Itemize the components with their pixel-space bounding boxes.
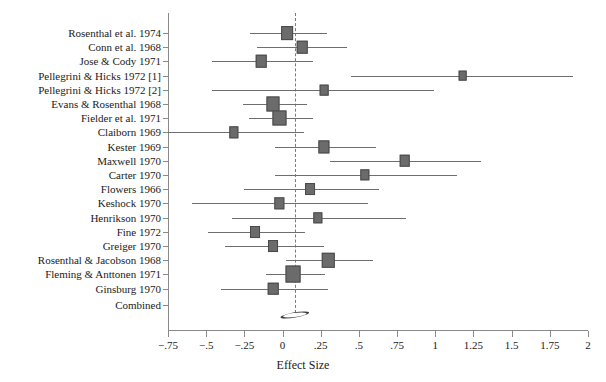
y-axis-tick <box>163 175 168 176</box>
y-axis-tick <box>163 104 168 105</box>
x-axis-title: Effect Size <box>0 358 606 373</box>
x-axis-tick-label: 1.25 <box>464 339 483 351</box>
y-axis-tick <box>163 232 168 233</box>
x-axis-tick-label: −.25 <box>234 339 254 351</box>
y-axis-tick <box>163 218 168 219</box>
study-label: Pellegrini & Hicks 1972 [1] <box>38 70 161 82</box>
x-axis-tick <box>359 331 360 337</box>
y-axis-tick <box>163 33 168 34</box>
study-label: Ginsburg 1970 <box>96 283 162 295</box>
study-label: Evans & Rosenthal 1968 <box>51 98 161 110</box>
study-label: Rosenthal & Jacobson 1968 <box>38 254 161 266</box>
y-axis-tick <box>163 90 168 91</box>
x-axis-tick-label: 1.5 <box>505 339 519 351</box>
y-axis-tick <box>163 61 168 62</box>
study-label: Conn et al. 1968 <box>88 41 161 53</box>
effect-size-marker <box>399 155 410 168</box>
study-label: Henrikson 1970 <box>90 212 161 224</box>
effect-size-marker <box>250 226 260 238</box>
effect-size-marker <box>275 198 284 209</box>
study-label: Fielder et al. 1971 <box>81 112 161 124</box>
effect-size-marker <box>297 41 308 54</box>
study-label: Claiborn 1969 <box>98 126 161 138</box>
x-axis-tick <box>397 331 398 337</box>
effect-size-marker <box>268 240 278 252</box>
forest-plot: Rosenthal et al. 1974Conn et al. 1968Jos… <box>0 0 606 382</box>
combined-effect-diamond <box>274 312 315 319</box>
x-axis-tick <box>588 331 589 337</box>
x-axis-tick <box>206 331 207 337</box>
y-axis-tick <box>163 260 168 261</box>
study-label: Fine 1972 <box>117 226 161 238</box>
x-axis-tick-label: −.75 <box>158 339 178 351</box>
effect-size-marker <box>318 140 329 153</box>
study-label: Jose & Cody 1971 <box>79 55 161 67</box>
y-axis-tick <box>163 274 168 275</box>
study-label: Carter 1970 <box>109 169 161 181</box>
x-axis-tick-label: .5 <box>355 339 363 351</box>
study-label: Flowers 1966 <box>101 183 161 195</box>
study-label: Greiger 1970 <box>103 240 161 252</box>
effect-size-marker <box>360 169 369 180</box>
x-axis-tick-label: 1 <box>433 339 439 351</box>
y-axis-tick <box>163 147 168 148</box>
x-axis-tick <box>550 331 551 337</box>
x-axis-tick <box>321 331 322 337</box>
x-axis-tick <box>435 331 436 337</box>
y-axis-tick-combined <box>163 305 168 306</box>
effect-size-marker <box>319 84 328 95</box>
y-axis-tick <box>163 132 168 133</box>
y-axis-tick <box>163 289 168 290</box>
x-axis-tick <box>283 331 284 337</box>
effect-size-marker <box>286 266 301 283</box>
effect-size-marker <box>281 26 293 40</box>
y-axis-tick <box>163 118 168 119</box>
effect-size-marker <box>268 282 279 295</box>
study-label: Fleming & Anttonen 1971 <box>45 268 161 280</box>
effect-size-marker <box>273 111 286 126</box>
x-axis-line <box>168 330 588 331</box>
effect-size-marker <box>229 127 238 138</box>
effect-size-marker <box>305 183 315 195</box>
x-axis-tick-label: 0 <box>280 339 286 351</box>
study-label-column: Rosenthal et al. 1974Conn et al. 1968Jos… <box>0 0 161 382</box>
x-axis-tick <box>473 331 474 337</box>
x-axis-tick-label: −.5 <box>199 339 213 351</box>
study-label: Maxwell 1970 <box>97 155 161 167</box>
y-axis-tick <box>163 47 168 48</box>
y-axis-line <box>168 13 169 331</box>
x-axis-tick-label: 1.75 <box>540 339 559 351</box>
study-label: Keshock 1970 <box>98 197 161 209</box>
y-axis-tick <box>163 76 168 77</box>
x-axis-tick-label: .75 <box>390 339 404 351</box>
effect-size-marker <box>256 55 267 68</box>
effect-size-marker <box>267 96 280 111</box>
study-label: Pellegrini & Hicks 1972 [2] <box>38 84 161 96</box>
effect-size-marker <box>313 212 322 223</box>
combined-label: Combined <box>115 299 161 311</box>
x-axis-tick <box>512 331 513 337</box>
effect-size-marker <box>458 70 467 81</box>
y-axis-tick <box>163 161 168 162</box>
x-axis-tick-label: .25 <box>314 339 328 351</box>
x-axis-tick-label: 2 <box>585 339 591 351</box>
y-axis-tick <box>163 203 168 204</box>
y-axis-tick <box>163 246 168 247</box>
y-axis-tick <box>163 189 168 190</box>
x-axis-tick <box>168 331 169 337</box>
study-label: Kester 1969 <box>108 141 161 153</box>
effect-size-marker <box>322 253 334 267</box>
x-axis-tick <box>244 331 245 337</box>
study-label: Rosenthal et al. 1974 <box>68 27 161 39</box>
